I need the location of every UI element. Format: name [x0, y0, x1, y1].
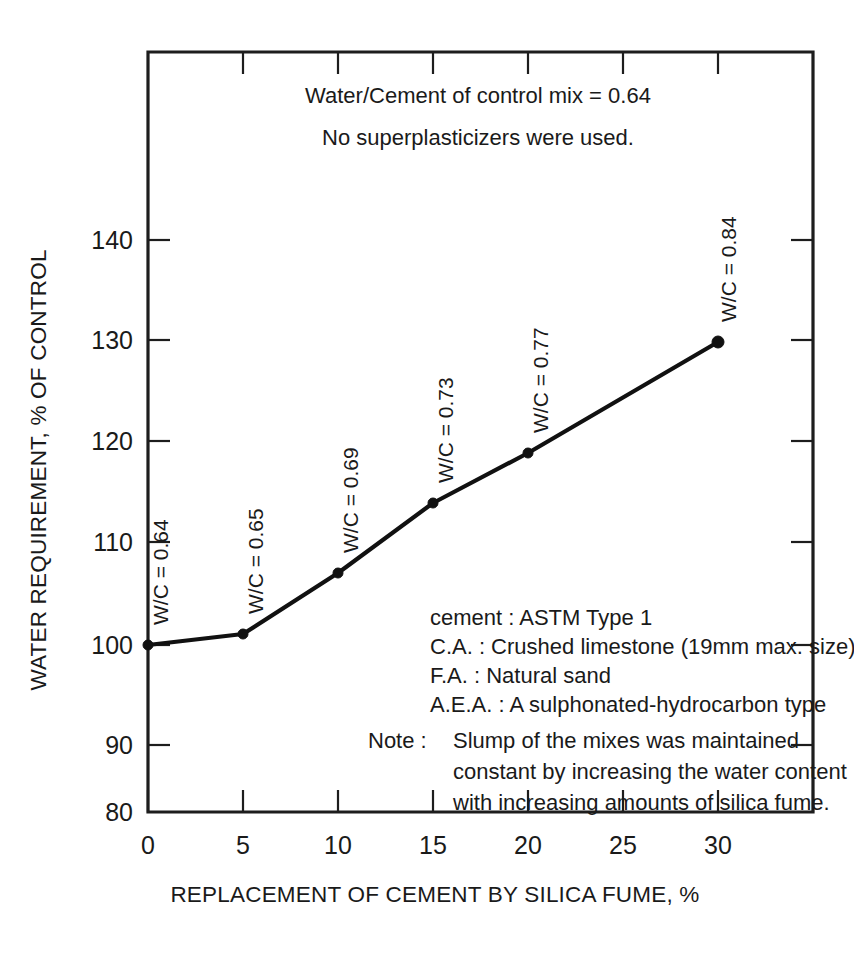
chart-figure: 140 130 120 110 100 90 80 0 5 10 15 20 2…: [0, 0, 854, 960]
y-tick-label-100: 100: [91, 631, 133, 659]
annotation-water-cement-control: Water/Cement of control mix = 0.64: [305, 83, 651, 108]
point-label-wc-073: W/C = 0.73: [434, 377, 457, 483]
annotation-no-superplasticizers: No superplasticizers were used.: [322, 125, 634, 150]
point-label-wc-069: W/C = 0.69: [339, 447, 362, 553]
materials-line-aea: A.E.A. : A sulphonated-hydrocarbon type: [430, 692, 826, 717]
note-line-3: with increasing amounts of silica fume.: [452, 790, 830, 815]
x-tick-label-20: 20: [514, 831, 542, 859]
point-label-wc-065: W/C = 0.65: [244, 508, 267, 614]
materials-line-ca: C.A. : Crushed limestone (19mm max. size…: [430, 634, 854, 659]
data-point-5: [238, 629, 248, 639]
y-tick-label-110: 110: [93, 528, 133, 556]
point-label-wc-077: W/C = 0.77: [529, 327, 552, 433]
y-tick-label-80: 80: [105, 798, 133, 826]
x-tick-label-5: 5: [236, 831, 250, 859]
y-tick-label-130: 130: [91, 326, 133, 354]
x-tick-label-25: 25: [609, 831, 637, 859]
x-tick-label-10: 10: [324, 831, 352, 859]
y-tick-label-140: 140: [91, 226, 133, 254]
data-point-0: [143, 640, 153, 650]
x-tick-label-15: 15: [419, 831, 447, 859]
note-label: Note :: [368, 728, 427, 753]
data-point-15: [428, 498, 438, 508]
materials-line-fa: F.A. : Natural sand: [430, 663, 611, 688]
note-line-1: Slump of the mixes was maintained: [453, 728, 799, 753]
y-axis-title: WATER REQUIREMENT, % OF CONTROL: [26, 249, 51, 690]
materials-line-cement: cement : ASTM Type 1: [430, 605, 652, 630]
data-point-20: [523, 448, 533, 458]
data-point-30: [712, 336, 724, 348]
note-line-2: constant by increasing the water content: [453, 759, 847, 784]
x-axis-title: REPLACEMENT OF CEMENT BY SILICA FUME, %: [170, 882, 699, 907]
x-tick-label-30: 30: [704, 831, 732, 859]
data-point-10: [333, 568, 343, 578]
point-label-wc-084: W/C = 0.84: [717, 216, 740, 322]
point-label-wc-064: W/C = 0.64: [149, 519, 172, 625]
water-requirement-line-chart: 140 130 120 110 100 90 80 0 5 10 15 20 2…: [0, 0, 854, 960]
x-tick-label-0: 0: [141, 831, 155, 859]
y-tick-label-90: 90: [105, 731, 133, 759]
y-tick-label-120: 120: [91, 427, 133, 455]
